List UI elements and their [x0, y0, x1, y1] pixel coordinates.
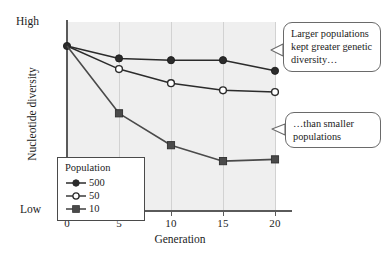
callout-tails [0, 0, 384, 262]
chart-figure: 0 5 10 15 20 High Low Nucleotide diversi… [0, 0, 384, 262]
